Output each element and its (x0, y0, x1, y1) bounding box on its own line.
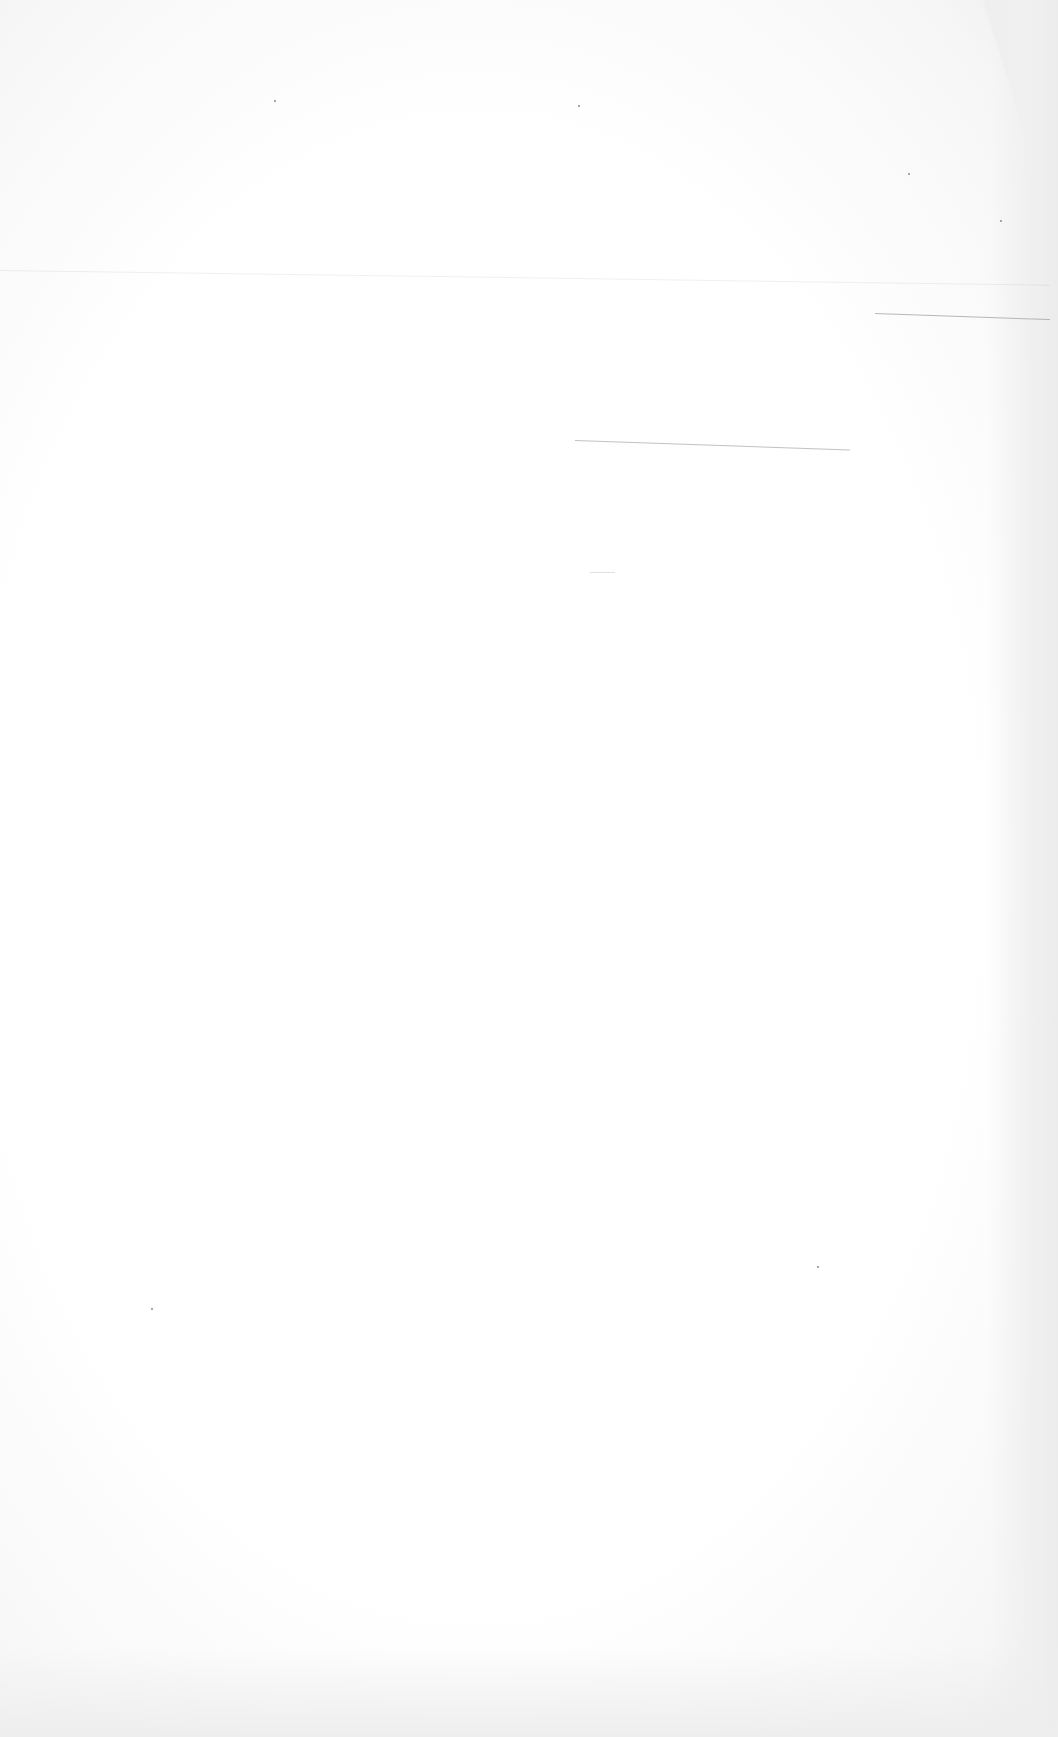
scan-speck (1000, 220, 1002, 222)
rule-line (575, 440, 850, 451)
scan-speck (817, 1266, 819, 1268)
scan-speck (151, 1308, 153, 1310)
scan-speck (274, 100, 276, 102)
rule-line (0, 270, 1050, 286)
page-edge-shadow (988, 0, 1058, 1737)
scan-speck (578, 105, 580, 107)
scan-speck (908, 173, 910, 175)
page-bottom-shadow (0, 1647, 1058, 1737)
rule-line (590, 572, 615, 573)
scanned-page (0, 0, 1058, 1737)
